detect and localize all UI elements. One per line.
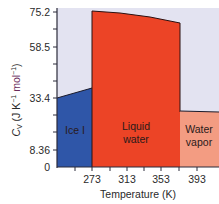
y-tick-label: 33.4 [30, 92, 51, 104]
y-axis-title: CV (J K−1 mol−1) [10, 63, 23, 136]
label-liquid-line1: Liquid [122, 120, 150, 132]
y-tick-label: 75.2 [30, 6, 51, 18]
x-tick-label: 393 [188, 173, 206, 185]
y-tick-label: 58.5 [30, 41, 51, 53]
x-ticks [75, 167, 197, 171]
label-vapor-line2: vapor [186, 136, 213, 148]
label-ice: Ice I [65, 124, 85, 136]
label-liquid-line2: water [122, 133, 149, 145]
label-vapor-line1: Water [185, 123, 213, 135]
y-tick-label: 8.36 [30, 144, 51, 156]
y-tick-label: 0 [44, 161, 50, 173]
x-tick-label: 313 [118, 173, 136, 185]
heat-capacity-chart: 75.2 58.5 33.4 8.36 0 273 313 353 393 Te… [0, 0, 219, 204]
x-axis-title: Temperature (K) [100, 188, 176, 200]
x-tick-label: 353 [152, 173, 170, 185]
x-tick-label: 273 [83, 173, 101, 185]
